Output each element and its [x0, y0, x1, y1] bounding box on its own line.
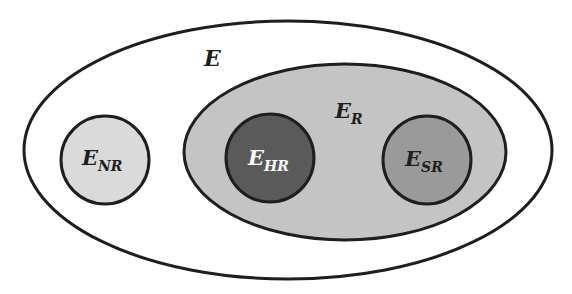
- set-soft-reflective: ESR: [383, 116, 471, 204]
- hard-reflective-label-main: E: [247, 145, 265, 170]
- set-diagram: E ER ENR EHR ESR: [0, 0, 572, 294]
- universe-label: E: [203, 45, 222, 71]
- reflective-label-main: E: [334, 98, 352, 123]
- reflective-label-sub: R: [350, 111, 363, 127]
- soft-reflective-label-sub: SR: [421, 159, 443, 175]
- soft-reflective-label-main: E: [404, 146, 422, 171]
- non-reflective-label-sub: NR: [97, 158, 122, 174]
- set-hard-reflective: EHR: [226, 114, 314, 202]
- hard-reflective-label-sub: HR: [263, 158, 289, 174]
- set-non-reflective: ENR: [61, 116, 149, 204]
- non-reflective-label-main: E: [81, 145, 99, 170]
